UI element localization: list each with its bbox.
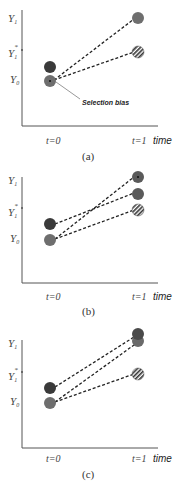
- y1star-label: Y1*: [8, 366, 18, 383]
- treated-circle-t0: [44, 382, 56, 394]
- dashed-line: [55, 345, 134, 402]
- panel-caption: (b): [82, 305, 95, 318]
- y1star-label: Y1*: [8, 43, 18, 60]
- observed-outcome-circle-t1: [132, 188, 144, 200]
- dashed-line: [55, 374, 134, 402]
- time-label: time: [153, 291, 172, 302]
- t0-label: t=0: [46, 135, 61, 146]
- time-label: time: [153, 135, 172, 146]
- dashed-line: [55, 193, 134, 224]
- counterfactual-hatched-circle-t1: [132, 368, 144, 380]
- treated-circle-t0: [44, 218, 56, 230]
- selection-bias-arrow: [56, 82, 80, 99]
- control-circle-t0: [44, 397, 56, 409]
- y0-label: Y0: [10, 232, 19, 245]
- counterfactual-hatched-circle-t1: [132, 46, 144, 58]
- point-dot: [137, 176, 139, 178]
- dashed-line: [55, 337, 134, 387]
- tick-y1star: [21, 49, 23, 51]
- counterfactual-hatched-circle-t1: [132, 204, 144, 216]
- panel-caption: (c): [82, 468, 95, 481]
- treated-circle-t0: [44, 61, 56, 73]
- y1-label: Y1: [8, 337, 17, 350]
- t1-label: t=1: [132, 135, 147, 146]
- y0-label: Y0: [10, 395, 19, 408]
- y1star-label: Y1*: [8, 202, 18, 219]
- panel-caption: (a): [82, 150, 95, 163]
- treated-outcome-circle-t1: [132, 328, 144, 340]
- time-label: time: [153, 453, 172, 464]
- dashed-line: [54, 19, 134, 80]
- selection-bias-diagram: Y1 Y1* Y0 Selection bias t=0 t=1 time (a…: [0, 0, 184, 493]
- t1-label: t=1: [132, 291, 147, 302]
- panel-a: Y1 Y1* Y0 Selection bias t=0 t=1 time (a…: [8, 10, 172, 163]
- dashed-line: [55, 210, 134, 239]
- tick-y1star: [21, 207, 23, 209]
- selection-bias-label: Selection bias: [82, 99, 129, 106]
- y1-label: Y1: [8, 12, 17, 25]
- control-circle-t0: [44, 234, 56, 246]
- dashed-line: [54, 52, 134, 80]
- y0-label: Y0: [10, 73, 19, 86]
- t0-label: t=0: [46, 291, 61, 302]
- tick-y1star: [21, 371, 23, 373]
- dashed-line: [55, 177, 134, 239]
- outcome-circle-t1: [132, 12, 144, 24]
- y1-label: Y1: [8, 174, 17, 187]
- panel-c: Y1 Y1* Y0 t=0 t=1 time (c): [8, 328, 172, 481]
- t0-label: t=0: [46, 453, 61, 464]
- point-dot: [49, 80, 51, 82]
- panel-b: Y1 Y1* Y0 t=0 t=1 time (b): [8, 171, 172, 318]
- t1-label: t=1: [132, 453, 147, 464]
